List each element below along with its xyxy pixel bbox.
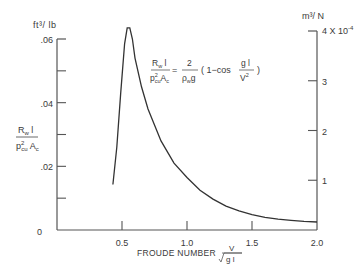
right-axis-ticks bbox=[308, 81, 317, 181]
x-tick-label: 0.5 bbox=[116, 238, 129, 248]
y-tick-label-right: 3 bbox=[322, 77, 327, 87]
svg-text:p2cu Ac: p2cu Ac bbox=[16, 140, 39, 152]
y-tick-label-left: .04 bbox=[40, 99, 53, 109]
left-axis-label: Rw l p2cu Ac bbox=[16, 125, 39, 152]
bottom-axis-ticks bbox=[122, 221, 252, 230]
svg-text:p2cuAc: p2cuAc bbox=[150, 72, 169, 84]
x-tick-label: 1.0 bbox=[181, 238, 194, 248]
y-tick-label-left: .06 bbox=[40, 35, 53, 45]
resistance-curve bbox=[113, 28, 317, 222]
origin-label: 0 bbox=[37, 227, 42, 237]
formula-annotation: Rw l p2cuAc = 2 ρwg ( 1−cos g l V2 ) bbox=[150, 58, 260, 84]
svg-text:V: V bbox=[229, 244, 235, 253]
x-axis-label: FROUDE NUMBER bbox=[137, 248, 216, 258]
svg-text:ρwg: ρwg bbox=[182, 73, 196, 84]
svg-text:( 1−cos: ( 1−cos bbox=[201, 65, 231, 75]
svg-text:g l: g l bbox=[241, 58, 250, 68]
tick-labels: .06.04.020.51.01.52.0123 bbox=[40, 35, 327, 248]
svg-text:2: 2 bbox=[187, 58, 192, 68]
svg-text:g l: g l bbox=[226, 255, 235, 264]
left-axis-ticks bbox=[57, 71, 66, 198]
y-tick-label-left: .02 bbox=[40, 162, 53, 172]
svg-text:=: = bbox=[172, 65, 177, 75]
left-axis-units: ft³/ lb bbox=[33, 20, 57, 30]
svg-text:): ) bbox=[257, 65, 260, 75]
froude-number-chart: .06.04.020.51.01.52.0123 ft³/ lb m³/ N 4… bbox=[0, 0, 360, 273]
svg-text:Rw l: Rw l bbox=[152, 58, 166, 69]
right-axis-top-tick-label: 4 X 10-4 bbox=[322, 25, 354, 36]
y-tick-label-right: 2 bbox=[322, 127, 327, 137]
y-tick-label-right: 1 bbox=[322, 176, 327, 186]
x-axis-formula: V g l bbox=[219, 244, 242, 264]
right-axis-units: m³/ N bbox=[302, 11, 324, 21]
x-tick-label: 2.0 bbox=[311, 238, 324, 248]
svg-text:V2: V2 bbox=[240, 72, 249, 83]
x-tick-label: 1.5 bbox=[246, 238, 259, 248]
svg-text:Rw l: Rw l bbox=[18, 125, 33, 136]
